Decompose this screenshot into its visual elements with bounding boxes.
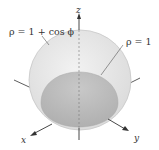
y-axis [108,119,125,129]
y-axis-arrowhead [122,126,129,131]
diagram-canvas: ρ = 1 + cos ϕ ρ = 1 z x y [0,0,159,150]
outer-surface-label: ρ = 1 + cos ϕ [9,26,75,37]
x-axis [33,124,52,134]
z-axis-label: z [75,5,81,15]
y-axis-label: y [133,133,140,143]
x-axis-arrowhead [30,131,37,136]
inner-surface-label: ρ = 1 [126,36,152,47]
inner-hemisphere [41,72,118,127]
x-axis-label: x [21,135,26,145]
